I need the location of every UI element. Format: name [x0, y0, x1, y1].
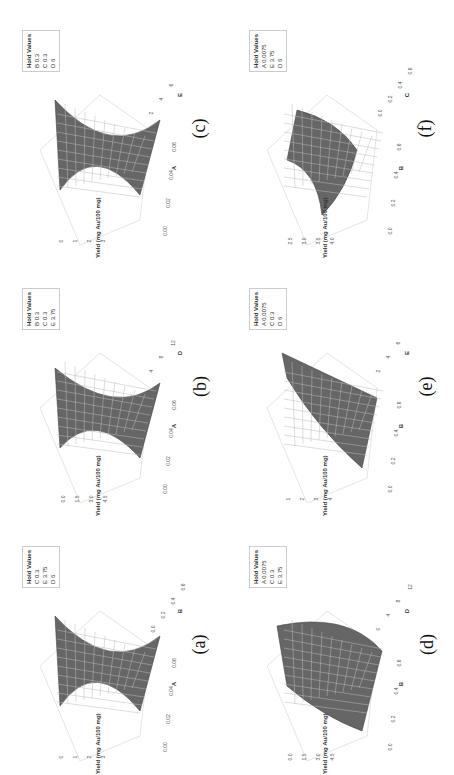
surface-plot-panel: Hold ValuesB 0.3C 0.3E 3.750.01.53.04.5Y… — [0, 258, 227, 516]
x-axis-tick: 0.6 — [396, 402, 402, 409]
x-axis-tick: 0.4 — [393, 430, 399, 437]
z-axis-label: Yield (mg Au/100 mg) — [95, 455, 101, 516]
y-axis-name: D — [404, 609, 410, 613]
x-axis-tick: 0.4 — [393, 688, 399, 695]
y-axis-tick: 0.6 — [180, 584, 186, 591]
z-axis-label: Yield (mg Au/100 mg) — [322, 713, 328, 774]
x-axis-name: B — [398, 424, 404, 428]
panel-label: (a) — [189, 635, 210, 655]
z-axis-tick: 1 — [72, 240, 78, 243]
x-axis-tick: 0.02 — [165, 198, 171, 208]
y-axis-tick: 12 — [407, 584, 413, 590]
z-axis-tick: 2 — [86, 240, 92, 243]
x-axis-tick: 0.6 — [396, 660, 402, 667]
y-axis-name: D — [177, 351, 183, 355]
y-axis-tick: 0.0 — [377, 110, 383, 117]
z-axis-tick: 4.0 — [329, 238, 335, 245]
panel-label: (b) — [190, 376, 211, 397]
y-axis-tick: 4 — [158, 98, 164, 101]
y-axis-tick: 0.6 — [407, 68, 413, 75]
z-axis-tick: 3 — [100, 756, 106, 759]
y-axis-tick: 8 — [158, 356, 164, 359]
x-axis-name: B — [398, 682, 404, 686]
x-axis-tick: 0.06 — [171, 142, 177, 152]
z-axis-tick: 2 — [299, 498, 305, 501]
surface-plot-panel: Hold ValuesB 0.3C 0.3D 60123Yield (mg Au… — [0, 0, 227, 258]
z-axis-tick: 1 — [285, 498, 291, 501]
x-axis-tick: 0.04 — [168, 686, 174, 696]
surface-plot-panel: Hold ValuesC 0.3E 3.75D 60123Yield (mg A… — [0, 516, 227, 774]
panel-label: (f) — [415, 120, 436, 138]
x-axis-name: B — [398, 166, 404, 170]
panel-label: (e) — [416, 377, 437, 397]
x-axis-tick: 0.0 — [387, 228, 393, 235]
panel-label: (c) — [189, 119, 210, 139]
x-axis-tick: 0.04 — [168, 170, 174, 180]
x-axis-tick: 0.00 — [162, 226, 168, 236]
z-axis-label: Yield (mg Au/100 mg) — [322, 197, 328, 258]
x-axis-tick: 0.4 — [393, 172, 399, 179]
z-axis-tick: 3.0 — [315, 754, 321, 761]
x-axis-tick: 0.2 — [390, 716, 396, 723]
x-axis-name: A — [171, 424, 177, 428]
x-axis-tick: 0.06 — [171, 400, 177, 410]
y-axis-name: B — [177, 609, 183, 613]
y-axis-name: C — [404, 93, 410, 97]
z-axis-tick: 0 — [58, 240, 64, 243]
y-axis-tick: 2 — [148, 112, 154, 115]
z-axis-tick: 1.5 — [74, 496, 80, 503]
surface-plot-panel: Hold ValuesA 0.0075E 3.75D 62.53.03.54.0… — [227, 0, 454, 258]
z-axis-tick: 4.5 — [329, 754, 335, 761]
z-axis-label: Yield (mg Au/100 mg) — [95, 713, 101, 774]
z-axis-tick: 3 — [100, 240, 106, 243]
y-axis-tick: 0.4 — [170, 598, 176, 605]
x-axis-tick: 0.0 — [387, 486, 393, 493]
y-axis-tick: 6 — [395, 342, 401, 345]
z-axis-tick: 4 — [327, 498, 333, 501]
y-axis-tick: 6 — [168, 84, 174, 87]
x-axis-tick: 0.0 — [387, 744, 393, 751]
z-axis-tick: 2 — [86, 756, 92, 759]
x-axis-name: A — [171, 682, 177, 686]
z-axis-tick: 0 — [58, 756, 64, 759]
surface-plot-panel: Hold ValuesA 0.0075C 0.3D 61234Yield (mg… — [227, 258, 454, 516]
x-axis-tick: 0.02 — [165, 456, 171, 466]
panel-label: (d) — [417, 634, 438, 655]
y-axis-tick: 0.4 — [397, 82, 403, 89]
x-axis-tick: 0.00 — [162, 742, 168, 752]
y-axis-tick: 0 — [375, 628, 381, 631]
y-axis-name: E — [177, 93, 183, 97]
z-axis-label: Yield (mg Au/100 mg) — [322, 455, 328, 516]
x-axis-tick: 0.06 — [171, 658, 177, 668]
z-axis-tick: 1.5 — [301, 754, 307, 761]
x-axis-tick: 0.04 — [168, 428, 174, 438]
z-axis-tick: 3 — [313, 498, 319, 501]
y-axis-tick: 0.0 — [150, 626, 156, 633]
x-axis-name: A — [171, 166, 177, 170]
surface-plot-panel: Hold ValuesA 0.0075C 0.3E 3.750.01.53.04… — [227, 516, 454, 774]
y-axis-tick: 0.2 — [387, 96, 393, 103]
x-axis-tick: 0.6 — [396, 144, 402, 151]
x-axis-tick: 0.00 — [162, 484, 168, 494]
z-axis-tick: 1 — [72, 756, 78, 759]
z-axis-tick: 4.5 — [102, 496, 108, 503]
y-axis-tick: 4 — [385, 356, 391, 359]
y-axis-tick: 2 — [375, 370, 381, 373]
x-axis-tick: 0.2 — [390, 200, 396, 207]
z-axis-tick: 2.5 — [287, 238, 293, 245]
y-axis-tick: 4 — [148, 370, 154, 373]
y-axis-tick: 8 — [395, 600, 401, 603]
z-axis-tick: 3.0 — [301, 238, 307, 245]
z-axis-tick: 0.0 — [60, 496, 66, 503]
z-axis-tick: 0.0 — [287, 754, 293, 761]
y-axis-name: E — [404, 351, 410, 355]
x-axis-tick: 0.2 — [390, 458, 396, 465]
x-axis-tick: 0.02 — [165, 714, 171, 724]
y-axis-tick: 0.2 — [160, 612, 166, 619]
z-axis-tick: 3.5 — [315, 238, 321, 245]
z-axis-tick: 3.0 — [88, 496, 94, 503]
y-axis-tick: 4 — [385, 614, 391, 617]
z-axis-label: Yield (mg Au/100 mg) — [95, 197, 101, 258]
y-axis-tick: 12 — [170, 340, 176, 346]
